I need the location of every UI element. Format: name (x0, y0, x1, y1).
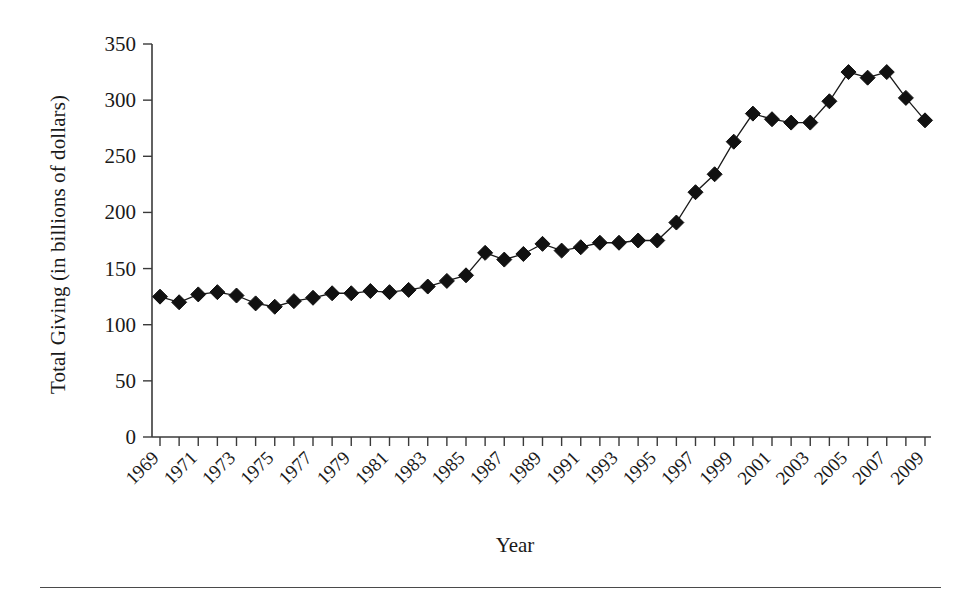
x-tick-label: 1979 (312, 447, 354, 489)
data-point-marker (841, 65, 856, 80)
x-tick-label: 1983 (389, 447, 431, 489)
data-point-marker (153, 289, 168, 304)
x-tick-label: 1995 (618, 447, 660, 489)
data-point-marker (306, 290, 321, 305)
data-markers (153, 65, 933, 315)
data-point-marker (248, 296, 263, 311)
data-point-marker (344, 286, 359, 301)
x-tick-label: 1987 (465, 447, 507, 489)
x-tick-label: 1969 (121, 447, 163, 489)
data-point-marker (860, 70, 875, 85)
y-tick-label: 250 (105, 144, 137, 168)
data-point-marker (745, 106, 760, 121)
data-point-marker (401, 282, 416, 297)
data-point-marker (631, 233, 646, 248)
x-tick-label: 1985 (427, 447, 469, 489)
data-point-marker (229, 288, 244, 303)
chart-figure: Total Giving (in billions of dollars) Ye… (0, 0, 957, 601)
x-tick-label: 1989 (504, 447, 546, 489)
data-point-marker (535, 236, 550, 251)
data-point-marker (612, 235, 627, 250)
data-point-marker (210, 285, 225, 300)
data-point-marker (286, 294, 301, 309)
x-tick-label: 1999 (695, 447, 737, 489)
x-tick-label: 1997 (657, 447, 699, 489)
data-point-marker (784, 115, 799, 130)
data-point-marker (325, 286, 340, 301)
x-tick-label: 2003 (771, 447, 813, 489)
x-tick-label: 2009 (886, 447, 928, 489)
data-point-marker (573, 240, 588, 255)
data-point-marker (592, 235, 607, 250)
y-tick-label: 50 (115, 369, 136, 393)
data-point-marker (497, 252, 512, 267)
data-point-marker (879, 65, 894, 80)
data-point-marker (382, 285, 397, 300)
footer-rule (40, 587, 941, 588)
y-axis: 050100150200250300350 (105, 32, 153, 449)
x-tick-label: 2001 (733, 447, 775, 489)
y-tick-label: 100 (105, 313, 137, 337)
line-chart-plot: 050100150200250300350 196919711973197519… (0, 0, 957, 601)
x-tick-label: 1991 (542, 447, 584, 489)
x-tick-label: 1993 (580, 447, 622, 489)
y-tick-label: 300 (105, 88, 137, 112)
x-tick-label: 1973 (198, 447, 240, 489)
y-tick-label: 150 (105, 257, 137, 281)
data-series-total-giving (160, 72, 925, 307)
x-tick-label: 2005 (810, 447, 852, 489)
x-tick-label: 1981 (351, 447, 393, 489)
x-tick-label: 2007 (848, 447, 890, 489)
y-tick-label: 350 (105, 32, 137, 56)
data-point-marker (765, 112, 780, 127)
data-point-marker (516, 246, 531, 261)
data-point-marker (191, 287, 206, 302)
y-tick-label: 200 (105, 200, 137, 224)
x-tick-label: 1977 (274, 447, 316, 489)
x-tick-label: 1975 (236, 447, 278, 489)
data-point-marker (726, 134, 741, 149)
data-point-marker (267, 299, 282, 314)
data-point-marker (420, 279, 435, 294)
data-point-marker (172, 295, 187, 310)
data-point-marker (554, 243, 569, 258)
x-tick-label: 1971 (159, 447, 201, 489)
y-tick-label: 0 (126, 425, 137, 449)
x-axis: 1969197119731975197719791981198319851987… (121, 437, 931, 489)
data-point-marker (363, 284, 378, 299)
data-point-marker (439, 273, 454, 288)
